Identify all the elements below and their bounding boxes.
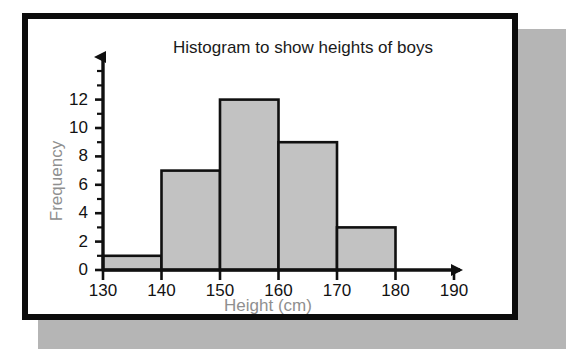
- x-tick-label: 180: [373, 281, 419, 301]
- histogram-bars: [103, 100, 396, 270]
- histogram-bar: [337, 227, 396, 270]
- x-tick-label: 130: [80, 281, 126, 301]
- x-tick-label: 140: [139, 281, 185, 301]
- y-tick-label: 6: [62, 175, 88, 195]
- histogram-bar: [103, 256, 162, 270]
- page-root: Histogram to show heights of boys Freque…: [0, 0, 566, 349]
- histogram-bar: [220, 100, 279, 270]
- y-tick-label: 12: [62, 90, 88, 110]
- histogram-plot: [28, 19, 512, 314]
- y-tick-label: 2: [62, 232, 88, 252]
- histogram-bar: [279, 142, 338, 270]
- chart-title: Histogram to show heights of boys: [128, 38, 478, 58]
- x-tick-label: 170: [314, 281, 360, 301]
- figure-frame: Histogram to show heights of boys Freque…: [22, 13, 518, 320]
- histogram-chart: Histogram to show heights of boys Freque…: [28, 19, 512, 314]
- histogram-bar: [162, 171, 221, 270]
- x-tick-label: 150: [197, 281, 243, 301]
- y-tick-label: 4: [62, 203, 88, 223]
- y-tick-label: 10: [62, 118, 88, 138]
- y-tick-label: 8: [62, 146, 88, 166]
- y-tick-label: 0: [62, 260, 88, 280]
- x-tick-label: 190: [431, 281, 477, 301]
- x-tick-label: 160: [256, 281, 302, 301]
